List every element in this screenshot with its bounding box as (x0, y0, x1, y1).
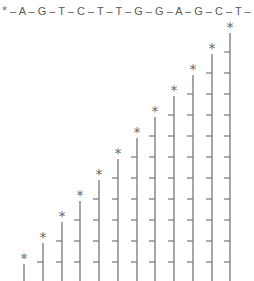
fragment-11: * (206, 40, 216, 281)
label-marker-icon: * (227, 19, 234, 35)
label-marker-icon: * (77, 187, 84, 203)
fragment-6: * (112, 145, 122, 281)
label-marker-icon: * (115, 145, 122, 161)
fragment-3: * (56, 208, 66, 281)
label-marker-icon: * (96, 166, 103, 182)
label-marker-icon: * (152, 103, 159, 119)
fragment-2: * (37, 229, 47, 281)
fragment-7: * (131, 124, 141, 281)
label-marker-icon: * (190, 61, 197, 77)
fragment-9: * (168, 82, 178, 281)
label-marker-icon: * (171, 82, 178, 98)
fragment-8: * (149, 103, 159, 281)
label-marker-icon: * (40, 229, 47, 245)
label-marker-icon: * (209, 40, 216, 56)
fragment-4: * (74, 187, 84, 281)
fragment-10: * (187, 61, 197, 281)
fragment-12: * (224, 19, 234, 281)
label-marker-icon: * (21, 250, 28, 266)
label-marker-icon: * (134, 124, 141, 140)
fragment-1: * (21, 250, 28, 281)
label-marker-icon: * (59, 208, 66, 224)
fragment-ladder: ************ (0, 0, 254, 281)
fragment-5: * (93, 166, 103, 281)
